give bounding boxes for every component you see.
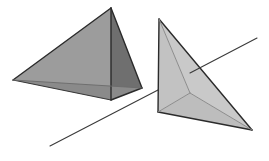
right-tetrahedron-edge-top-to-bottom-left [158,19,159,112]
diagram-canvas [0,0,269,161]
geometry-scene [0,0,269,161]
